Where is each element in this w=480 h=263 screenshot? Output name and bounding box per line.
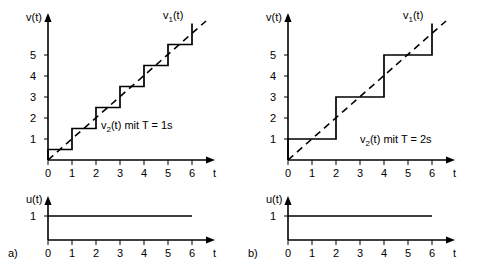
u-x-ticks: 0 1 2 3 4 5 6 [285, 240, 435, 259]
annotation-v2-period: v2(t) mit T = 2s [360, 133, 432, 148]
u-x-tick-label-6: 6 [429, 247, 435, 259]
u-x-tick-label-6: 6 [189, 247, 195, 259]
x-ticks: 0 1 2 3 4 5 6 [45, 160, 195, 179]
u-y-axis-label: u(t) [266, 193, 283, 205]
x-tick-label-5: 5 [165, 167, 171, 179]
panel-tag-b: b) [248, 247, 258, 259]
x-ticks: 0 1 2 3 4 5 6 [285, 160, 435, 179]
panel-b-bottom-plot: u(t) t 1 0 1 2 3 4 5 [266, 193, 456, 259]
u-y-axis-arrowhead [44, 196, 51, 205]
y-ticks: 1 2 3 4 5 [270, 49, 288, 145]
figure-step-response-diagram: v(t) t 1 2 3 4 5 [0, 0, 480, 263]
panel-a: v(t) t 1 2 3 4 5 [0, 0, 240, 263]
curve-label-v1: v1(t) [403, 9, 423, 24]
u-x-tick-label-4: 4 [381, 247, 387, 259]
x-tick-label-2: 2 [93, 167, 99, 179]
x-tick-label-1: 1 [309, 167, 315, 179]
x-axis-arrowhead [446, 156, 455, 163]
panel-b-canvas: v(t) t 1 2 3 4 5 [240, 0, 480, 263]
y-tick-label-5: 5 [30, 49, 36, 61]
x-tick-label-3: 3 [357, 167, 363, 179]
panel-a-canvas: v(t) t 1 2 3 4 5 [0, 0, 240, 263]
y-tick-label-3: 3 [30, 91, 36, 103]
y-axis-arrowhead [284, 13, 291, 22]
x-axis-label: t [453, 167, 456, 179]
y-tick-label-2: 2 [270, 112, 276, 124]
u-x-ticks: 0 1 2 3 4 5 6 [45, 240, 195, 259]
y-axis-arrowhead [44, 13, 51, 22]
u-x-tick-label-2: 2 [93, 247, 99, 259]
staircase-curve-v2 [48, 24, 192, 161]
u-x-tick-label-4: 4 [141, 247, 147, 259]
panel-tag-a: a) [8, 247, 18, 259]
u-x-tick-label-0: 0 [285, 247, 291, 259]
panel-b-top-plot: v(t) t 1 2 3 4 5 [266, 9, 456, 179]
y-axis-label: v(t) [26, 11, 42, 23]
y-tick-label-1: 1 [30, 133, 36, 145]
x-axis-label: t [213, 167, 216, 179]
x-tick-label-4: 4 [381, 167, 387, 179]
u-x-tick-label-0: 0 [45, 247, 51, 259]
x-tick-label-6: 6 [429, 167, 435, 179]
u-y-tick-label-1: 1 [30, 210, 36, 222]
x-tick-label-0: 0 [45, 167, 51, 179]
y-tick-label-2: 2 [30, 112, 36, 124]
x-axis-arrowhead [206, 156, 215, 163]
u-x-tick-label-1: 1 [309, 247, 315, 259]
y-ticks: 1 2 3 4 5 [30, 49, 48, 145]
curve-label-v1: v1(t) [163, 9, 183, 24]
y-tick-label-5: 5 [270, 49, 276, 61]
y-tick-label-4: 4 [30, 70, 36, 82]
u-x-axis-label: t [213, 247, 216, 259]
u-y-axis-arrowhead [284, 196, 291, 205]
y-tick-label-4: 4 [270, 70, 276, 82]
annotation-v2-period: v2(t) mit T = 1s [101, 119, 173, 134]
u-x-axis-label: t [453, 247, 456, 259]
u-y-axis-label: u(t) [26, 193, 43, 205]
y-axis-label: v(t) [266, 11, 282, 23]
x-tick-label-4: 4 [141, 167, 147, 179]
panel-b: v(t) t 1 2 3 4 5 [240, 0, 480, 263]
x-tick-label-1: 1 [69, 167, 75, 179]
u-x-tick-label-2: 2 [333, 247, 339, 259]
x-tick-label-5: 5 [405, 167, 411, 179]
u-x-tick-label-5: 5 [165, 247, 171, 259]
x-tick-label-3: 3 [117, 167, 123, 179]
u-x-tick-label-3: 3 [357, 247, 363, 259]
u-x-axis-arrowhead [446, 236, 455, 243]
panel-a-top-plot: v(t) t 1 2 3 4 5 [26, 9, 216, 179]
panel-a-bottom-plot: u(t) t 1 0 1 2 3 4 5 [26, 193, 216, 259]
x-tick-label-0: 0 [285, 167, 291, 179]
u-x-tick-label-3: 3 [117, 247, 123, 259]
u-y-tick-label-1: 1 [270, 210, 276, 222]
u-x-tick-label-5: 5 [405, 247, 411, 259]
x-tick-label-2: 2 [333, 167, 339, 179]
y-tick-label-1: 1 [270, 133, 276, 145]
u-x-axis-arrowhead [206, 236, 215, 243]
y-tick-label-3: 3 [270, 91, 276, 103]
u-x-tick-label-1: 1 [69, 247, 75, 259]
x-tick-label-6: 6 [189, 167, 195, 179]
